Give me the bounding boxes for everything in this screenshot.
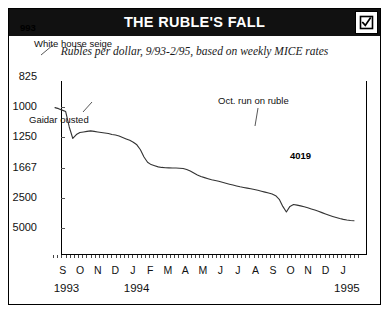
x-axis-month-label: D xyxy=(318,264,334,276)
annotation-white-house-seige: White house seige xyxy=(34,38,112,49)
x-axis-year-label: 1995 xyxy=(334,282,360,295)
x-axis-month-label: D xyxy=(107,264,123,276)
y-axis-tick xyxy=(61,198,65,199)
x-axis-tick xyxy=(95,255,96,258)
x-axis-tick xyxy=(195,255,196,258)
x-axis-tick xyxy=(249,255,250,258)
x-axis-tick xyxy=(279,255,280,258)
x-axis-tick xyxy=(354,255,355,258)
x-axis-tick xyxy=(53,255,54,258)
x-axis-tick xyxy=(233,255,234,258)
annotation-gaidar-ousted: Gaidar ousted xyxy=(29,114,89,125)
x-axis-tick xyxy=(254,255,255,258)
x-axis-tick xyxy=(162,255,163,258)
x-axis-month-label: J xyxy=(230,264,246,276)
x-axis-tick xyxy=(61,255,62,258)
x-axis-tick xyxy=(262,255,263,258)
x-axis-tick xyxy=(312,255,313,258)
x-axis-month-label: A xyxy=(177,264,193,276)
x-axis-month-label: J xyxy=(335,264,351,276)
x-axis-tick xyxy=(300,255,301,258)
y-axis-tick-label: 825 xyxy=(19,71,37,82)
x-axis-tick xyxy=(216,255,217,258)
x-axis-tick xyxy=(228,255,229,258)
x-axis-tick xyxy=(258,255,259,258)
x-axis-tick xyxy=(178,255,179,258)
x-axis-tick xyxy=(345,255,346,258)
ruble-rate-line xyxy=(55,108,354,221)
x-axis-tick xyxy=(220,255,221,258)
x-axis-tick xyxy=(166,255,167,258)
y-axis-tick xyxy=(61,228,65,229)
x-axis-tick xyxy=(274,255,275,258)
x-axis-tick xyxy=(91,255,92,258)
x-axis-tick xyxy=(153,255,154,258)
x-axis-month-label: O xyxy=(283,264,299,276)
x-axis-tick xyxy=(358,255,359,258)
x-axis-month-label: N xyxy=(300,264,316,276)
x-axis-tick xyxy=(103,255,104,258)
x-axis-tick xyxy=(333,255,334,258)
x-axis-tick xyxy=(157,255,158,258)
start-value-label: 993 xyxy=(20,22,36,33)
x-axis-tick xyxy=(337,255,338,258)
x-axis-tick xyxy=(270,255,271,258)
x-axis-tick xyxy=(316,255,317,258)
x-axis-tick xyxy=(187,255,188,258)
x-axis-tick xyxy=(183,255,184,258)
x-axis-tick xyxy=(199,255,200,258)
x-axis-tick xyxy=(145,255,146,258)
x-axis-tick xyxy=(174,255,175,258)
chart-frame: THE RUBLE'S FALL Rubles per dollar, 9/93… xyxy=(8,8,381,305)
x-axis-month-label: J xyxy=(125,264,141,276)
x-axis-tick xyxy=(99,255,100,258)
x-axis-tick xyxy=(149,255,150,258)
y-axis-tick xyxy=(61,137,65,138)
title-bar: THE RUBLE'S FALL xyxy=(9,9,380,36)
x-axis-tick xyxy=(325,255,326,258)
checked-checkbox-icon[interactable] xyxy=(355,11,378,34)
y-axis-tick-label: 1250 xyxy=(13,131,37,142)
x-axis-tick xyxy=(111,255,112,258)
x-axis-tick xyxy=(170,255,171,258)
x-axis-month-label: F xyxy=(142,264,158,276)
x-axis-tick xyxy=(57,255,58,258)
x-axis-year-label: 1994 xyxy=(124,282,150,295)
x-axis-month-label: M xyxy=(195,264,211,276)
x-axis-tick xyxy=(304,255,305,258)
x-axis-tick xyxy=(124,255,125,258)
x-axis-tick xyxy=(291,255,292,258)
x-axis-month-label: S xyxy=(265,264,281,276)
x-axis-tick xyxy=(141,255,142,258)
x-axis-tick xyxy=(237,255,238,258)
x-axis-tick xyxy=(107,255,108,258)
x-axis-tick xyxy=(283,255,284,258)
x-axis-tick xyxy=(208,255,209,258)
y-axis-tick-label: 1667 xyxy=(13,162,37,173)
x-axis-tick xyxy=(224,255,225,258)
x-axis-tick xyxy=(241,255,242,258)
x-axis-tick xyxy=(70,255,71,258)
x-axis-tick xyxy=(66,255,67,258)
x-axis-month-label: M xyxy=(160,264,176,276)
x-axis-tick xyxy=(350,255,351,258)
x-axis-month-label: J xyxy=(212,264,228,276)
x-axis-month-label: N xyxy=(90,264,106,276)
x-axis-tick xyxy=(308,255,309,258)
end-value-label: 4019 xyxy=(290,150,311,161)
x-axis-tick xyxy=(191,255,192,258)
x-axis-tick xyxy=(287,255,288,258)
x-axis-month-label: O xyxy=(72,264,88,276)
annotation-oct-run-on-ruble: Oct. run on ruble xyxy=(218,95,289,106)
x-axis-tick xyxy=(266,255,267,258)
x-axis-tick xyxy=(116,255,117,258)
x-axis-tick xyxy=(74,255,75,258)
x-axis-tick xyxy=(212,255,213,258)
x-axis-tick xyxy=(320,255,321,258)
x-axis-tick xyxy=(132,255,133,258)
x-axis-tick xyxy=(120,255,121,258)
x-axis-tick xyxy=(245,255,246,258)
x-axis-tick xyxy=(341,255,342,258)
page-title: THE RUBLE'S FALL xyxy=(9,9,380,36)
y-axis-tick-label: 5000 xyxy=(13,222,37,233)
